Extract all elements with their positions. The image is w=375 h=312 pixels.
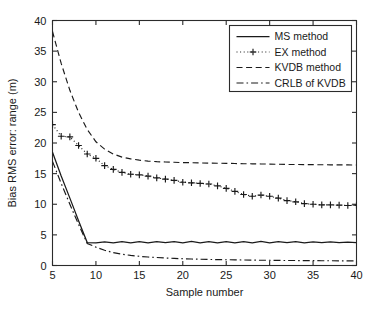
- chart-canvas: 5101520253035400510152025303540Sample nu…: [0, 0, 375, 312]
- y-axis-title: Bias RMS error: range (m): [6, 79, 18, 208]
- series-ms-method: [53, 152, 357, 243]
- y-tick-label: 15: [34, 168, 46, 180]
- chart-legend: MS methodEX methodKVDB methodCRLB of KVD…: [230, 26, 352, 92]
- y-tick-label: 20: [34, 137, 46, 149]
- y-tick-label: 10: [34, 198, 46, 210]
- chart-figure: 5101520253035400510152025303540Sample nu…: [0, 0, 375, 312]
- y-tick-label: 35: [34, 45, 46, 57]
- x-tick-label: 30: [264, 269, 276, 281]
- legend-label: CRLB of KVDB: [275, 77, 346, 89]
- legend-label: MS method: [275, 30, 329, 42]
- x-tick-label: 25: [220, 269, 232, 281]
- x-tick-label: 10: [90, 269, 102, 281]
- y-tick-label: 40: [34, 15, 46, 27]
- x-axis-title: Sample number: [166, 286, 244, 298]
- series-crlb-of-kvdb: [53, 161, 357, 261]
- legend-label: KVDB method: [275, 61, 342, 73]
- x-tick-label: 15: [133, 269, 145, 281]
- legend-label: EX method: [275, 46, 327, 58]
- x-tick-label: 40: [350, 269, 362, 281]
- x-tick-label: 35: [307, 269, 319, 281]
- y-tick-label: 25: [34, 106, 46, 118]
- y-tick-label: 0: [40, 260, 46, 272]
- x-tick-label: 20: [177, 269, 189, 281]
- y-tick-label: 5: [40, 229, 46, 241]
- x-tick-label: 5: [49, 269, 55, 281]
- y-tick-label: 30: [34, 76, 46, 88]
